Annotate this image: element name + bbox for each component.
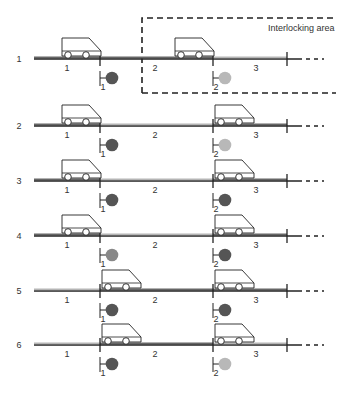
track-section-2 (100, 343, 213, 345)
section-label-1: 1 (64, 349, 69, 359)
signal-light-2 (219, 249, 232, 262)
signal-light-2 (219, 139, 232, 152)
signal-label-2: 2 (213, 259, 218, 269)
signal-label-1: 1 (100, 204, 105, 214)
section-label-3: 3 (253, 130, 258, 140)
section-label-3: 3 (253, 240, 258, 250)
track-section-2 (100, 234, 213, 236)
train-icon (102, 324, 141, 344)
section-label-2: 2 (152, 63, 157, 73)
row-label: 2 (16, 121, 21, 131)
row-label: 5 (16, 286, 21, 296)
section-label-2: 2 (152, 130, 157, 140)
signal-light-2 (219, 194, 232, 207)
track-section-3 (213, 57, 287, 59)
row-label: 4 (16, 231, 21, 241)
interlocking-diagram: 112312212312312312412312512312612312 (0, 0, 339, 397)
train-icon (62, 215, 101, 235)
train-icon (215, 270, 254, 290)
signal-label-1: 1 (100, 82, 105, 92)
signal-light-1 (106, 194, 119, 207)
section-label-2: 2 (152, 349, 157, 359)
signal-light-2 (219, 358, 232, 371)
signal-label-1: 1 (100, 259, 105, 269)
section-label-3: 3 (253, 185, 258, 195)
signal-light-1 (106, 249, 119, 262)
train-icon (215, 160, 254, 180)
signal-label-2: 2 (213, 82, 218, 92)
section-label-1: 1 (64, 295, 69, 305)
signal-light-1 (106, 72, 119, 85)
signal-label-1: 1 (100, 368, 105, 378)
track-section-2 (100, 289, 213, 291)
row-label: 6 (16, 340, 21, 350)
track-section-2 (100, 179, 213, 181)
train-icon (62, 105, 101, 125)
signal-label-1: 1 (100, 314, 105, 324)
interlocking-area-label: Interlocking area (268, 23, 335, 33)
section-label-3: 3 (253, 295, 258, 305)
section-label-1: 1 (64, 240, 69, 250)
train-icon (175, 38, 214, 58)
signal-label-2: 2 (213, 314, 218, 324)
section-label-3: 3 (253, 63, 258, 73)
track-section-2 (100, 124, 213, 126)
signal-light-1 (106, 358, 119, 371)
train-icon (215, 215, 254, 235)
signal-label-2: 2 (213, 368, 218, 378)
section-label-2: 2 (152, 185, 157, 195)
section-label-1: 1 (64, 130, 69, 140)
row-label: 3 (16, 176, 21, 186)
section-label-2: 2 (152, 240, 157, 250)
section-label-1: 1 (64, 185, 69, 195)
track-section-1 (34, 343, 100, 345)
signal-label-1: 1 (100, 149, 105, 159)
section-label-3: 3 (253, 349, 258, 359)
train-icon (215, 324, 254, 344)
section-label-1: 1 (64, 63, 69, 73)
signal-light-1 (106, 304, 119, 317)
signal-light-2 (219, 72, 232, 85)
train-icon (62, 160, 101, 180)
signal-light-1 (106, 139, 119, 152)
signal-label-2: 2 (213, 149, 218, 159)
section-label-2: 2 (152, 295, 157, 305)
train-icon (215, 105, 254, 125)
train-icon (62, 38, 101, 58)
train-icon (102, 270, 141, 290)
row-label: 1 (16, 54, 21, 64)
signal-light-2 (219, 304, 232, 317)
track-section-1 (34, 289, 100, 291)
signal-label-2: 2 (213, 204, 218, 214)
